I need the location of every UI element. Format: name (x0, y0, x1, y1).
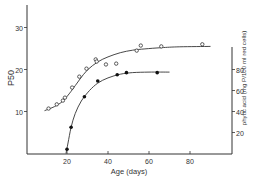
open-circle-point (95, 60, 98, 63)
phytic-acid-curve (66, 72, 170, 153)
filled-circle-point (69, 125, 73, 129)
open-circle-point (85, 67, 88, 70)
open-circle-point (104, 63, 107, 66)
x-tick-label: 80 (186, 158, 194, 165)
open-circle-point (160, 45, 163, 48)
figure: 1020302040608020406080 P50 phytic acid (… (0, 0, 259, 179)
x-axis-label: Age (days) (111, 167, 148, 176)
x-tick-label: 40 (104, 158, 112, 165)
open-circle-point (55, 103, 58, 106)
y-tick-label-left: 10 (15, 109, 23, 116)
x-tick-label: 60 (145, 158, 153, 165)
filled-circle-point (155, 71, 159, 75)
open-circle-point (47, 107, 50, 110)
open-circle-point (63, 96, 66, 99)
axes: 1020302040608020406080 (15, 5, 244, 165)
y-tick-label-left: 30 (15, 25, 23, 32)
filled-circle-point (83, 95, 87, 99)
y-tick-label-left: 20 (15, 67, 23, 74)
open-circle-point (135, 49, 138, 52)
data-points (47, 43, 204, 152)
filled-circle-point (115, 73, 119, 77)
p50-curve (45, 46, 211, 110)
filled-circle-point (125, 71, 129, 75)
y-tick-label-right: 20 (236, 130, 244, 137)
open-circle-point (78, 75, 81, 78)
open-circle-point (115, 62, 118, 65)
fitted-curves (45, 46, 211, 153)
chart: 1020302040608020406080 P50 phytic acid (… (0, 0, 259, 179)
open-circle-point (139, 44, 142, 47)
open-circle-point (70, 86, 73, 89)
open-circle-point (201, 43, 204, 46)
y-axis-right-label: phytic acid (mg P/100 ml red cells) (240, 31, 247, 126)
y-axis-left-label: P50 (6, 70, 16, 86)
filled-circle-point (96, 79, 100, 83)
x-tick-label: 20 (63, 158, 71, 165)
filled-circle-point (65, 148, 69, 152)
